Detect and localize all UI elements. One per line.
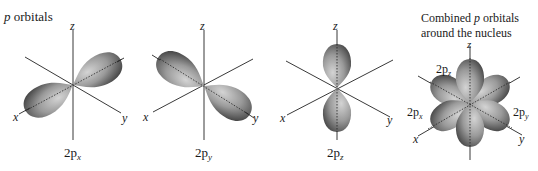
x-label: x: [279, 111, 286, 125]
x-label: x: [142, 110, 149, 124]
combined-title-line1: Combined p orbitals: [421, 11, 519, 25]
p-orbitals-diagram: p orbitals z x y 2px z x y 2py: [0, 0, 538, 171]
y-label: y: [518, 132, 525, 146]
panel-2px: z x y 2px: [12, 19, 128, 162]
label-2px: 2px: [407, 105, 423, 121]
z-label: z: [199, 19, 205, 33]
y-label: y: [386, 113, 393, 127]
x-label: x: [412, 132, 419, 146]
panel-2py: z x y 2py: [142, 19, 259, 162]
panel-2pz: z x y 2pz: [279, 19, 393, 162]
caption-2px: 2px: [64, 145, 81, 162]
z-label: z: [332, 19, 338, 33]
caption-2py: 2py: [195, 145, 212, 162]
y-label: y: [121, 111, 128, 125]
caption-2pz: 2pz: [327, 145, 344, 162]
panel-combined: Combined p orbitals around the nucleus z…: [407, 11, 529, 160]
x-label: x: [12, 110, 19, 124]
label-2pz: 2pz: [436, 62, 452, 78]
z-label: z: [69, 19, 75, 33]
y-label: y: [252, 111, 259, 125]
label-2py: 2py: [513, 105, 529, 121]
title-p-orbitals: p orbitals: [3, 9, 53, 24]
z-label: z: [466, 38, 472, 50]
